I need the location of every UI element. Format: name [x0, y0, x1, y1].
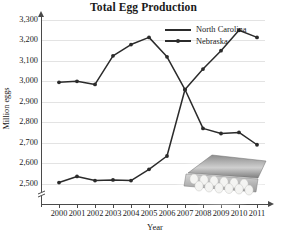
y-axis-line	[41, 15, 42, 207]
y-axis-arrow-icon	[38, 11, 44, 17]
x-axis-line	[41, 204, 269, 205]
x-tick	[239, 204, 240, 208]
plot-area	[41, 20, 265, 204]
y-tick-label: 2,800	[19, 118, 38, 126]
y-tick-label: 2,700	[19, 139, 38, 147]
gridline	[41, 184, 265, 185]
legend-line-icon	[165, 29, 191, 31]
chart-legend: North Carolina Nebraska	[165, 24, 246, 47]
x-tick	[59, 204, 60, 208]
x-tick	[113, 204, 114, 208]
x-tick	[77, 204, 78, 208]
gridline	[41, 122, 265, 123]
x-tick-label: 2011	[242, 209, 272, 218]
y-tick-label: 3,000	[19, 77, 38, 85]
y-tick-label: 2,600	[19, 159, 38, 167]
gridline	[41, 81, 265, 82]
legend-label: Nebraska	[196, 36, 228, 48]
legend-line-icon	[165, 40, 191, 42]
chart-figure: Total Egg Production 3,300 3,200 3,100 3…	[0, 0, 287, 237]
y-tick-label: 3,300	[19, 16, 38, 24]
x-tick	[257, 204, 258, 208]
y-tick-label: 3,200	[19, 36, 38, 44]
y-tick-label: 2,500	[19, 180, 38, 188]
gridline	[41, 102, 265, 103]
y-tick-label: 2,900	[19, 98, 38, 106]
x-tick	[167, 204, 168, 208]
x-tick	[131, 204, 132, 208]
x-tick	[149, 204, 150, 208]
legend-item-nebraska: Nebraska	[165, 36, 246, 48]
x-tick	[95, 204, 96, 208]
gridline	[41, 163, 265, 164]
legend-item-north-carolina: North Carolina	[165, 24, 246, 36]
x-tick	[221, 204, 222, 208]
y-axis-title: Million eggs	[2, 77, 11, 141]
x-axis-arrow-icon	[268, 201, 274, 207]
x-tick	[203, 204, 204, 208]
gridline	[41, 143, 265, 144]
gridline	[41, 61, 265, 62]
y-tick-label: 3,100	[19, 57, 38, 65]
x-axis-title: Year	[41, 222, 269, 232]
x-tick	[185, 204, 186, 208]
legend-label: North Carolina	[196, 24, 246, 36]
gridline	[41, 20, 265, 21]
